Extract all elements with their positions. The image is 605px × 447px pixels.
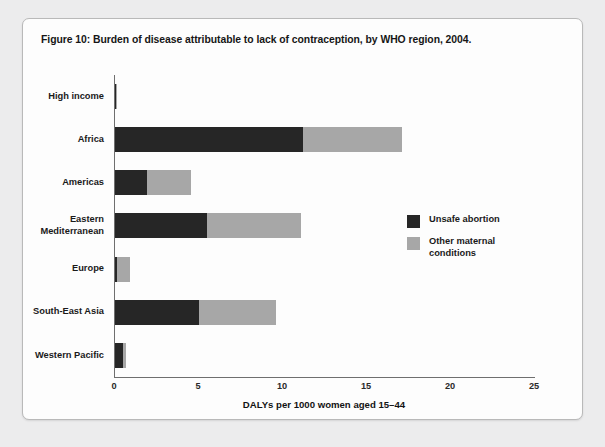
bar-segment: [303, 127, 402, 152]
x-tick-label: 10: [262, 381, 302, 391]
x-tick-label: 20: [430, 381, 470, 391]
figure-title: Figure 10: Burden of disease attributabl…: [41, 33, 561, 46]
bar-row: Western Pacific: [115, 334, 126, 377]
bar-segment: [117, 257, 130, 282]
legend-swatch: [407, 215, 420, 228]
chart-plot-area: High incomeAfricaAmericasEastern Mediter…: [114, 75, 534, 377]
bar-segment: [199, 300, 276, 325]
x-tick-label: 5: [178, 381, 218, 391]
stacked-bar: [115, 170, 191, 195]
bar-row: South-East Asia: [115, 291, 276, 334]
category-label: Europe: [0, 263, 104, 275]
figure-card: Figure 10: Burden of disease attributabl…: [22, 18, 583, 420]
legend-swatch: [407, 237, 420, 250]
bar-row: Americas: [115, 161, 191, 204]
bar-segment: [115, 127, 303, 152]
stacked-bar: [115, 257, 130, 282]
bar-segment: [116, 84, 117, 109]
stacked-bar: [115, 213, 301, 238]
bar-segment: [115, 343, 123, 368]
bar-row: Eastern Mediterranean: [115, 204, 301, 247]
bar-segment: [123, 343, 126, 368]
bar-segment: [147, 170, 191, 195]
x-axis-title: DALYs per 1000 women aged 15–44: [114, 399, 534, 410]
x-tick-label: 0: [94, 381, 134, 391]
category-label: High income: [0, 91, 104, 103]
legend-item: Unsafe abortion: [407, 214, 500, 228]
category-label: Americas: [0, 177, 104, 189]
bar-segment: [207, 213, 301, 238]
stacked-bar: [115, 343, 126, 368]
stacked-bar: [115, 127, 402, 152]
stacked-bar: [115, 84, 117, 109]
bar-row: High income: [115, 75, 117, 118]
x-axis-line: [114, 377, 535, 378]
bar-segment: [115, 170, 147, 195]
stacked-bar: [115, 300, 276, 325]
bar-segment: [115, 213, 207, 238]
category-label: Western Pacific: [0, 350, 104, 362]
legend-label: Unsafe abortion: [429, 214, 500, 226]
category-label: Africa: [0, 134, 104, 146]
x-tick-label: 25: [514, 381, 554, 391]
legend-label: Other maternal conditions: [429, 236, 495, 259]
bar-row: Europe: [115, 248, 130, 291]
bar-row: Africa: [115, 118, 402, 161]
x-tick-label: 15: [346, 381, 386, 391]
category-label: Eastern Mediterranean: [0, 214, 104, 237]
bar-segment: [115, 300, 199, 325]
legend-item: Other maternal conditions: [407, 236, 500, 259]
category-label: South-East Asia: [0, 306, 104, 318]
chart-legend: Unsafe abortionOther maternal conditions: [407, 214, 500, 267]
